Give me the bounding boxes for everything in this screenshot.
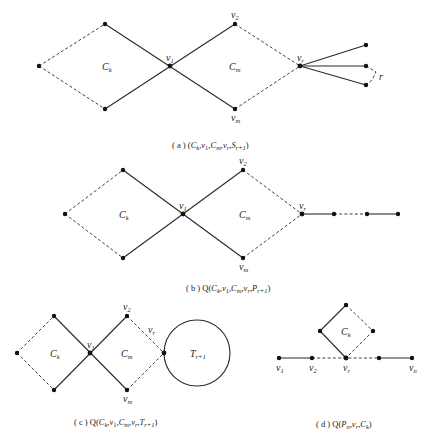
edge-dashed [17,316,54,353]
vertex [396,212,400,216]
panel-d: Ck v1 v2 vr vn ( d ) Q(Pn,vr,Ck) [276,303,417,430]
vertex-vr [300,212,305,217]
vertex [103,22,107,26]
graph-figure: Ck Cm v1 v2 vm vr r ( a ) (Ck,v1,Cm,vr,S… [0,0,429,439]
panel-a: Ck Cm v1 v2 vm vr r ( a ) (Ck,v1,Cm,vr,S… [37,9,383,151]
label-vn: vn [409,362,417,374]
label-cycle-k: Ck [50,348,60,360]
label-v1: v1 [87,339,95,351]
caption-c: ( c ) Q(Ck,v1,Cm,vr,Tr+1) [74,417,157,428]
label-tree: Tr+1 [190,348,206,360]
caption-a: ( a ) (Ck,v1,Cm,vr,Sr+1) [172,140,249,151]
vertex [37,64,41,68]
label-cycle-k: Ck [341,326,351,338]
label-v2: v2 [239,155,247,167]
edge-dashed [243,170,302,214]
vertex [63,212,67,216]
vertex-v1 [277,356,281,360]
caption-d: ( d ) Q(Pn,vr,Ck) [316,419,372,430]
label-vm: vm [231,112,240,124]
panel-b: Ck Cm v1 v2 vm vr ( b ) Q(Ck,v1,Cm,vr,Pr… [63,155,400,294]
vertex-vn [410,356,414,360]
label-v2: v2 [309,362,317,374]
edge-dashed [39,24,105,66]
vertex [103,107,107,111]
star-leaf-brace [366,66,376,85]
edge-dashed [235,24,300,66]
label-leaf-count: r [379,71,383,82]
vertex-v1 [181,212,186,217]
edge-dashed [235,66,300,109]
vertex-vm [241,256,245,260]
vertex-vr [298,64,303,69]
edge-dashed [65,170,123,214]
edge-dashed [243,214,302,258]
label-vr: vr [148,324,155,336]
vertex [332,212,336,216]
edge-dashed [346,305,373,331]
edge-dashed [39,66,105,109]
vertex [371,329,375,333]
label-vr: vr [343,362,350,374]
vertex-vm [125,388,129,392]
label-vm: vm [239,261,248,273]
edge-dashed [65,214,123,258]
panel-c: Ck Cm v1 v2 vm vr Tr+1 ( c ) Q(Ck,v1,Cm,… [15,301,230,428]
vertex [52,314,56,318]
vertex [344,303,348,307]
edge-dashed [127,316,164,353]
vertex-v2 [233,22,237,26]
vertex-leaf [364,83,368,87]
vertex [121,168,125,172]
vertex [52,388,56,392]
vertex-v1 [168,64,173,69]
edge [300,45,366,66]
label-vr: vr [299,200,306,212]
label-cycle-m: Cm [239,209,251,221]
label-cycle-m: Cm [229,61,241,73]
label-v1: v1 [166,52,174,64]
vertex-vm [233,107,237,111]
vertex-v2 [310,356,314,360]
vertex [377,356,381,360]
label-vr: vr [297,52,304,64]
caption-b: ( b ) Q(Ck,v1,Cm,vr,Pr+1) [186,283,270,294]
vertex-v2 [241,168,245,172]
vertex-leaf [364,43,368,47]
vertex-leaf [364,64,368,68]
vertex-vr [344,356,349,361]
vertex-v1 [88,351,93,356]
label-v1: v1 [276,362,284,374]
edge-dashed [127,353,164,390]
label-vm: vm [123,393,132,405]
vertex-vr [162,351,167,356]
vertex-v2 [125,314,129,318]
label-v2: v2 [123,301,131,313]
label-v2: v2 [231,9,239,21]
vertex [318,329,322,333]
label-cycle-k: Ck [119,209,129,221]
edge-dashed [17,353,54,390]
label-cycle-k: Ck [102,61,112,73]
label-cycle-m: Cm [121,348,133,360]
vertex [121,256,125,260]
vertex [15,351,19,355]
vertex [365,212,369,216]
label-v1: v1 [179,200,187,212]
edge [300,66,366,85]
